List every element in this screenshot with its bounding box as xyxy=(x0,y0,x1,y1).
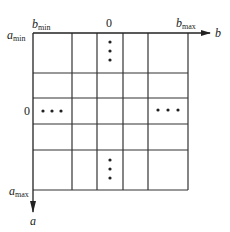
a-max-label: amax xyxy=(9,185,29,199)
ellipsis-top-center xyxy=(108,40,111,61)
b-min-label: bmin xyxy=(32,18,50,32)
b-zero-label: 0 xyxy=(106,17,112,29)
a-min-label: amin xyxy=(7,29,25,43)
a-axis-label: a xyxy=(30,215,36,227)
b-axis-label: b xyxy=(215,27,221,39)
ellipsis-bottom-center xyxy=(108,158,111,179)
ellipsis-left-middle xyxy=(41,109,62,112)
b-max-label: bmax xyxy=(176,17,196,31)
a-zero-label: 0 xyxy=(24,105,30,117)
grid-lines xyxy=(33,33,188,190)
ellipsis-right-middle xyxy=(156,108,179,111)
grid-diagram xyxy=(0,0,230,232)
